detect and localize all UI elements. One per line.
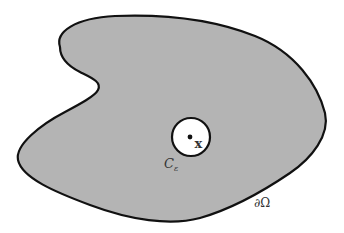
point-x-label: x [195, 136, 203, 151]
diagram-canvas: x Cε ∂Ω [0, 0, 344, 233]
domain-diagram: x Cε ∂Ω [0, 0, 344, 233]
circle-label-main: C [164, 156, 174, 171]
point-x-dot [188, 135, 193, 140]
circle-label-subscript: ε [174, 164, 178, 173]
boundary-label: ∂Ω [254, 196, 270, 210]
domain-region [18, 16, 326, 222]
